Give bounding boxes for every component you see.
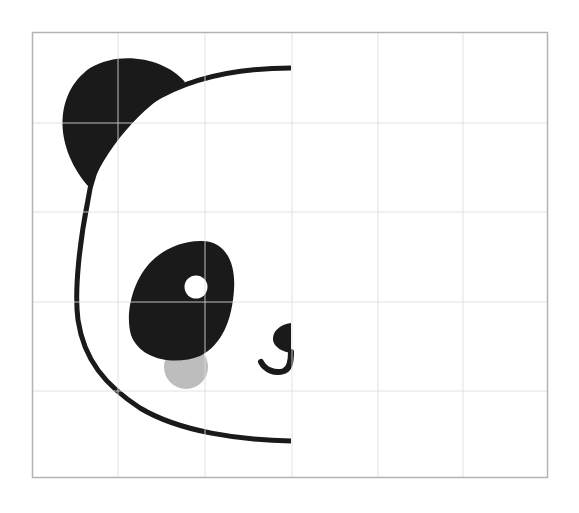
panda-pupil <box>185 276 208 299</box>
panda-grid-drawing <box>0 0 579 513</box>
